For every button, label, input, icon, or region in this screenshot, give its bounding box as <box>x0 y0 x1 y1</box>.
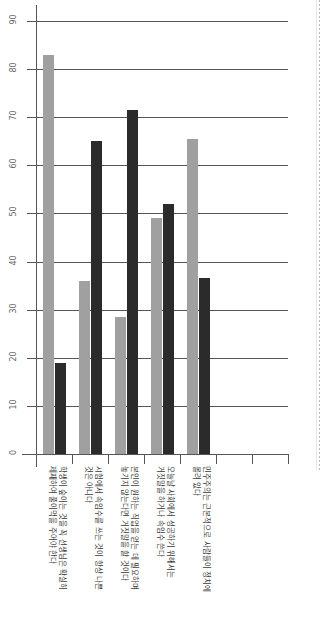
x-tick-4 <box>180 454 181 464</box>
y-tick-50 <box>27 213 36 214</box>
category-label-0: 학생이 숲이는 것을 꼭 선생님은 확실히제재하여 풀이먹을 주어야 한다 <box>33 466 67 643</box>
y-tick-label-20: 20 <box>9 346 18 366</box>
page-edge-line <box>316 0 317 471</box>
category-label-4-line-1: 몰려 있다 <box>192 466 202 643</box>
category-label-2-line-0: 본인이 원하는 직업을 얻는 데 필요하며 <box>130 466 140 643</box>
y-tick-10 <box>27 406 36 407</box>
bar-series-gray-cat3 <box>151 218 162 454</box>
y-tick-90 <box>27 21 36 22</box>
chart-page: 0102030405060708090 학생이 숲이는 것을 꼭 선생님은 확실… <box>0 0 323 643</box>
y-tick-label-10: 10 <box>9 394 18 414</box>
y-tick-label-30: 30 <box>9 298 18 318</box>
x-tick-6 <box>252 454 253 464</box>
bar-series-gray-cat0 <box>43 55 54 454</box>
y-tick-60 <box>27 165 36 166</box>
x-tick-end <box>288 454 289 464</box>
bar-series-black-cat0 <box>55 363 66 454</box>
bar-series-black-cat4 <box>199 278 210 454</box>
bar-series-black-cat1 <box>91 141 102 454</box>
category-label-4-line-0: 민주주의는 근본적으로 사람들이 정치에 <box>202 466 212 643</box>
x-tick-3 <box>144 454 145 464</box>
category-label-3-line-1: 거짓말을 하거나 속임수 쓴다 <box>156 466 166 643</box>
y-tick-70 <box>27 117 36 118</box>
x-axis-line <box>22 454 288 455</box>
y-tick-label-0: 0 <box>9 443 18 463</box>
category-label-0-line-1: 제재하여 풀이먹을 주어야 한다 <box>48 466 58 643</box>
category-label-2: 본인이 원하는 직업을 얻는 데 필요하며놓기지 않는다면 거짓말을 할 것이다 <box>105 466 139 643</box>
y-tick-label-60: 60 <box>9 154 18 174</box>
category-label-3-line-0: 오늘날 사회에서 성공하기 위해서는 <box>166 466 176 643</box>
y-tick-label-70: 70 <box>9 106 18 126</box>
y-tick-30 <box>27 310 36 311</box>
bar-series-black-cat2 <box>127 110 138 454</box>
x-tick-5 <box>216 454 217 464</box>
category-label-4: 민주주의는 근본적으로 사람들이 정치에몰려 있다 <box>177 466 211 643</box>
category-label-3: 오늘날 사회에서 성공하기 위해서는거짓말을 하거나 속임수 쓴다 <box>141 466 175 643</box>
category-labels: 학생이 숲이는 것을 꼭 선생님은 확실히제재하여 풀이먹을 주어야 한다시험에… <box>0 466 323 643</box>
bar-series-gray-cat4 <box>187 139 198 454</box>
bar-series-group <box>36 21 288 454</box>
y-tick-label-80: 80 <box>9 58 18 78</box>
category-label-2-line-1: 놓기지 않는다면 거짓말을 할 것이다 <box>120 466 130 643</box>
y-tick-20 <box>27 358 36 359</box>
bar-series-gray-cat2 <box>115 317 126 454</box>
category-label-1-line-1: 것은 아니다 <box>84 466 94 643</box>
page-edge-dotted <box>319 0 320 471</box>
y-tick-0 <box>27 454 36 455</box>
y-tick-label-40: 40 <box>9 250 18 270</box>
y-tick-label-50: 50 <box>9 202 18 222</box>
y-tick-40 <box>27 262 36 263</box>
category-label-1: 시험에서 속임수를 쓰는 것이 항상 나쁜것은 아니다 <box>69 466 103 643</box>
x-tick-2 <box>108 454 109 464</box>
category-label-1-line-0: 시험에서 속임수를 쓰는 것이 항상 나쁜 <box>94 466 104 643</box>
x-tick-0 <box>36 454 37 464</box>
category-label-0-line-0: 학생이 숲이는 것을 꼭 선생님은 확실히 <box>58 466 68 643</box>
y-tick-label-90: 90 <box>9 10 18 30</box>
y-tick-80 <box>27 69 36 70</box>
x-tick-1 <box>72 454 73 464</box>
bar-series-gray-cat1 <box>79 281 90 454</box>
bar-series-black-cat3 <box>163 204 174 454</box>
